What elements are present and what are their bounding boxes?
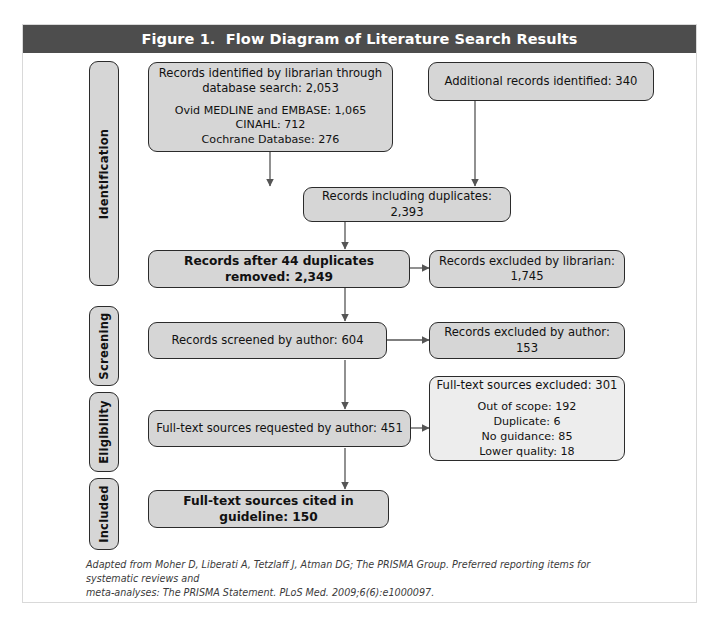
node-additional-records-text: Additional records identified: 340 (445, 74, 638, 89)
node-records-identified-line2: database search: 2,053 (202, 81, 339, 96)
stage-label-identification-text: Identification (97, 128, 111, 219)
node-fulltext-excluded-detail: Out of scope: 192 Duplicate: 6 No guidan… (478, 400, 577, 459)
detail-ovid-medline-embase: Ovid MEDLINE and EMBASE: 1,065 (175, 104, 367, 119)
stage-label-screening-text: Screening (97, 312, 111, 379)
stage-label-identification: Identification (89, 61, 119, 286)
node-records-screened-text: Records screened by author: 604 (171, 333, 363, 348)
detail-duplicate: Duplicate: 6 (478, 415, 577, 430)
node-excluded-by-author: Records excluded by author: 153 (429, 322, 625, 359)
detail-cochrane-database: Cochrane Database: 276 (175, 133, 367, 148)
node-excluded-by-librarian-text: Records excluded by librarian: 1,745 (436, 254, 618, 285)
stage-label-included: Included (89, 478, 119, 550)
node-records-including-duplicates: Records including duplicates: 2,393 (303, 187, 511, 222)
flow-diagram-canvas: Identification Screening Eligibility Inc… (0, 0, 718, 626)
figure-footnote-line-1: Adapted from Moher D, Liberati A, Tetzla… (86, 558, 642, 586)
node-fulltext-excluded-text: Full-text sources excluded: 301 (437, 378, 618, 393)
stage-label-included-text: Included (97, 485, 111, 543)
node-records-identified-detail: Ovid MEDLINE and EMBASE: 1,065 CINAHL: 7… (175, 104, 367, 149)
stage-label-eligibility: Eligibility (89, 392, 119, 472)
figure-footnote-line-2: meta-analyses: The PRISMA Statement. PLo… (86, 586, 642, 600)
node-records-after-duplicates-removed-text: Records after 44 duplicates removed: 2,3… (155, 253, 403, 285)
detail-cinahl: CINAHL: 712 (175, 118, 367, 133)
figure-page: Figure 1. Flow Diagram of Literature Sea… (0, 0, 718, 626)
node-fulltext-excluded: Full-text sources excluded: 301 Out of s… (429, 376, 625, 461)
node-fulltext-cited: Full-text sources cited in guideline: 15… (148, 490, 389, 528)
node-records-after-duplicates-removed: Records after 44 duplicates removed: 2,3… (148, 250, 410, 288)
node-fulltext-requested: Full-text sources requested by author: 4… (148, 410, 411, 447)
node-records-including-duplicates-text: Records including duplicates: 2,393 (310, 189, 504, 220)
node-additional-records: Additional records identified: 340 (428, 62, 654, 101)
node-excluded-by-librarian: Records excluded by librarian: 1,745 (429, 250, 625, 288)
detail-out-of-scope: Out of scope: 192 (478, 400, 577, 415)
node-records-identified: Records identified by librarian through … (148, 62, 393, 152)
stage-label-eligibility-text: Eligibility (97, 400, 111, 464)
node-records-screened: Records screened by author: 604 (148, 322, 387, 359)
node-excluded-by-author-text: Records excluded by author: 153 (436, 325, 618, 356)
node-fulltext-requested-text: Full-text sources requested by author: 4… (156, 421, 403, 436)
node-fulltext-cited-text: Full-text sources cited in guideline: 15… (155, 493, 382, 525)
detail-no-guidance: No guidance: 85 (478, 430, 577, 445)
figure-footnote: Adapted from Moher D, Liberati A, Tetzla… (86, 558, 642, 600)
detail-lower-quality: Lower quality: 18 (478, 445, 577, 460)
node-records-identified-line1: Records identified by librarian through (159, 66, 382, 81)
stage-label-screening: Screening (89, 306, 119, 386)
